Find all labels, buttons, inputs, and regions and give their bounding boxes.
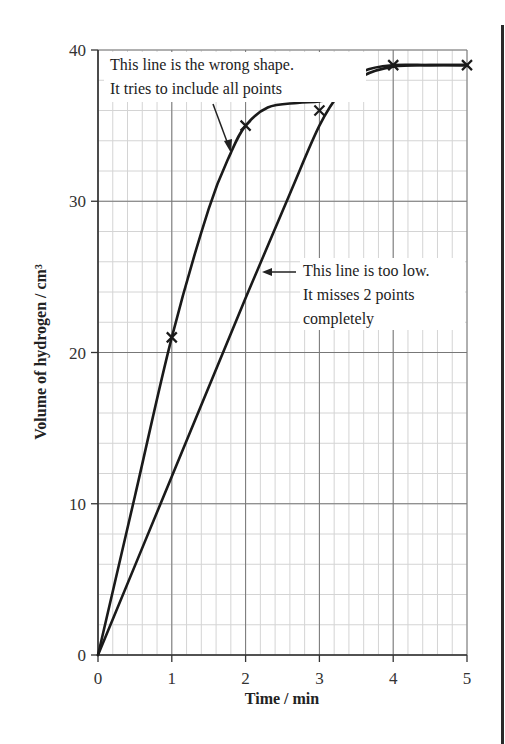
- y-tick-label: 30: [69, 192, 86, 211]
- series-line: [98, 65, 467, 655]
- y-axis-tick-labels: 010203040: [69, 41, 98, 665]
- annotation-wrong-shape-line1: This line is the wrong shape.: [110, 56, 294, 74]
- x-tick-label: 2: [241, 669, 250, 688]
- y-axis-title: Volume of hydrogen / cm³: [32, 264, 50, 440]
- arrow-icon: [262, 268, 296, 276]
- y-tick-label: 20: [69, 344, 86, 363]
- x-tick-label: 0: [94, 669, 103, 688]
- y-tick-label: 10: [69, 495, 86, 514]
- x-tick-label: 4: [389, 669, 398, 688]
- chart: 012345 010203040 Time / min Volume of hy…: [0, 0, 505, 744]
- page-border: [501, 25, 504, 744]
- x-tick-label: 1: [168, 669, 177, 688]
- plot-lines: [98, 65, 467, 655]
- annotation-wrong-shape-line2: It tries to include all points: [110, 80, 282, 98]
- y-tick-label: 40: [69, 41, 86, 60]
- annotation-too-low-line3: completely: [303, 310, 374, 328]
- series-line: [98, 65, 467, 655]
- annotation-too-low-line2: It misses 2 points: [303, 286, 415, 304]
- x-axis-tick-labels: 012345: [94, 655, 472, 688]
- x-tick-label: 3: [315, 669, 324, 688]
- y-tick-label: 0: [78, 646, 87, 665]
- annotation-too-low: This line is too low. It misses 2 points…: [262, 258, 465, 330]
- annotation-too-low-line1: This line is too low.: [303, 262, 430, 279]
- x-axis-title: Time / min: [245, 690, 319, 707]
- x-tick-label: 5: [463, 669, 472, 688]
- annotation-wrong-shape: This line is the wrong shape. It tries t…: [104, 52, 366, 153]
